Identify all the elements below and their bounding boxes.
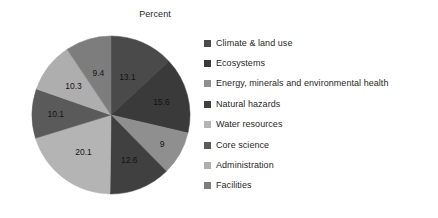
- legend-item-label: Energy, minerals and environmental healt…: [216, 79, 388, 88]
- pie-value-label: 9: [160, 139, 165, 149]
- legend-swatch-icon: [204, 101, 211, 108]
- legend-swatch-icon: [204, 162, 211, 169]
- legend-item[interactable]: Ecosystems: [204, 53, 438, 73]
- legend-swatch-icon: [204, 40, 211, 47]
- legend-item-label: Ecosystems: [216, 59, 265, 68]
- legend-item[interactable]: Facilities: [204, 176, 438, 196]
- pie-value-label: 20.1: [75, 147, 92, 157]
- pie-svg: 13.115.6912.620.110.110.39.4: [26, 28, 198, 204]
- pie-chart-figure: Percent 13.115.6912.620.110.110.39.4 Cli…: [0, 0, 438, 218]
- legend-item-label: Administration: [216, 161, 274, 170]
- pie-value-label: 12.6: [121, 155, 138, 165]
- legend-swatch-icon: [204, 182, 211, 189]
- legend-item-label: Natural hazards: [216, 100, 280, 109]
- chart-title: Percent: [0, 9, 310, 19]
- legend-swatch-icon: [204, 60, 211, 67]
- pie-value-label: 10.1: [47, 109, 64, 119]
- legend-item[interactable]: Natural hazards: [204, 94, 438, 114]
- pie-value-label: 15.6: [153, 97, 170, 107]
- pie-value-label: 13.1: [119, 72, 136, 82]
- legend-item[interactable]: Water resources: [204, 115, 438, 135]
- legend-item[interactable]: Core science: [204, 135, 438, 155]
- legend-item-label: Core science: [216, 141, 269, 150]
- legend-item[interactable]: Climate & land use: [204, 33, 438, 53]
- pie-value-label: 9.4: [92, 68, 104, 78]
- chart-legend: Climate & land useEcosystemsEnergy, mine…: [204, 33, 438, 196]
- pie-value-label: 10.3: [65, 81, 82, 91]
- legend-item-label: Climate & land use: [216, 39, 292, 48]
- legend-item[interactable]: Administration: [204, 155, 438, 175]
- legend-item[interactable]: Energy, minerals and environmental healt…: [204, 74, 438, 94]
- pie-plot-area: 13.115.6912.620.110.110.39.4: [26, 28, 198, 204]
- legend-item-label: Water resources: [216, 120, 282, 129]
- legend-swatch-icon: [204, 142, 211, 149]
- legend-swatch-icon: [204, 121, 211, 128]
- legend-swatch-icon: [204, 80, 211, 87]
- legend-item-label: Facilities: [216, 181, 252, 190]
